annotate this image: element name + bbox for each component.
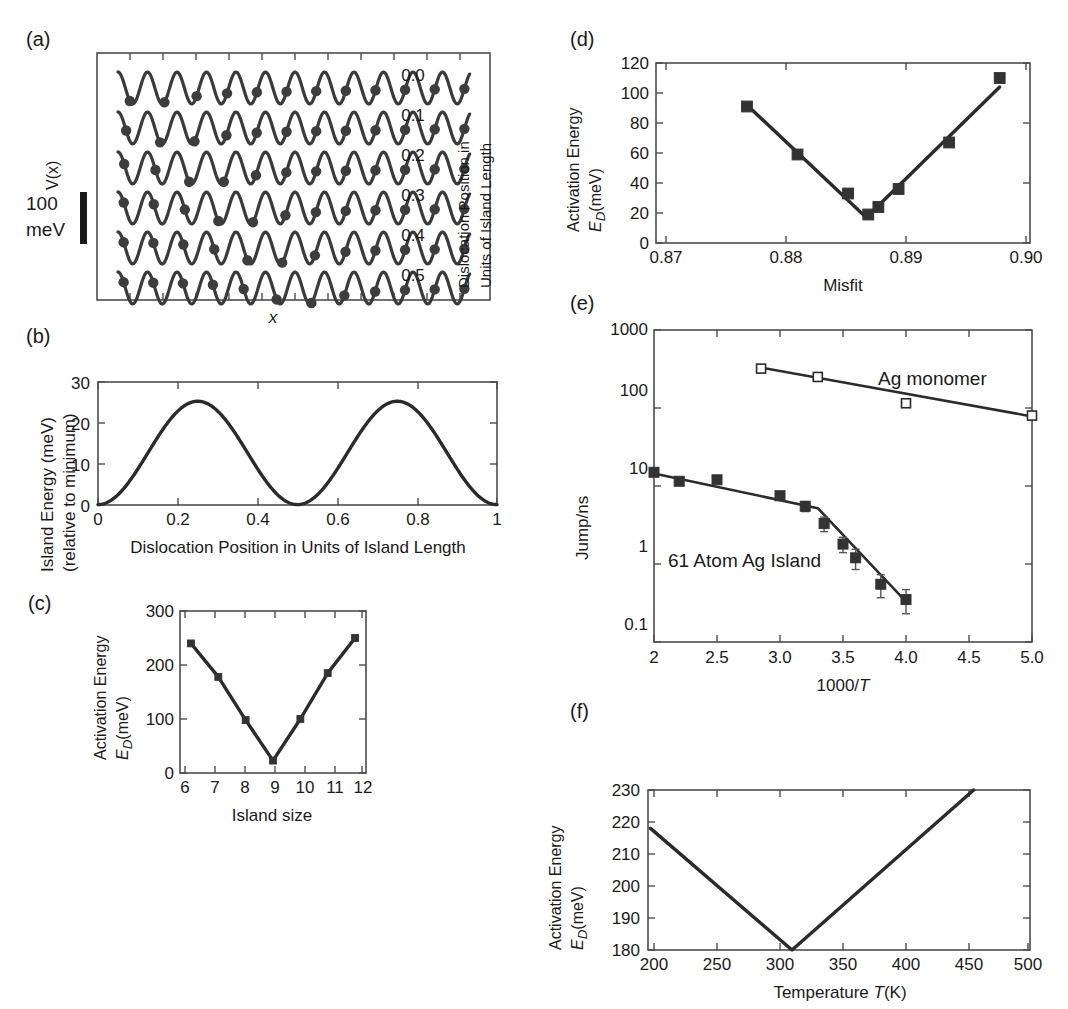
panel-d-ytick-6: 120 (595, 54, 649, 74)
panel-d-marker (863, 209, 874, 220)
panel-c-marker (188, 640, 195, 647)
panel-e-xlabel: 1000/T (743, 676, 943, 696)
panel-a-atom (242, 255, 252, 265)
panel-a-atom (118, 237, 128, 247)
panel-a-atom (311, 86, 321, 96)
panel-a-atom (208, 280, 218, 290)
panel-e-plot (0, 0, 1068, 1009)
panel-c-xticks (185, 611, 362, 773)
panel-a-atom (149, 199, 159, 209)
panel-e-annotation-monomer: Ag monomer (878, 368, 987, 390)
panel-a-label: (a) (26, 28, 50, 51)
panel-a-atom (125, 96, 135, 106)
panel-d-yticks (656, 63, 1030, 243)
panel-c-marker (215, 673, 222, 680)
panel-c-marker (352, 635, 359, 642)
panel-c-markers (188, 635, 359, 764)
panel-f-ytick-1: 190 (578, 909, 640, 929)
panel-a-atom (248, 217, 258, 227)
panel-a-atom (178, 278, 188, 288)
panel-a-atom (459, 124, 469, 134)
panel-b-xtick-2: 0.4 (228, 510, 288, 530)
panel-a-trace-label-5: 0.5 (393, 266, 433, 286)
panel-a-atom (459, 84, 469, 94)
panel-c-xlabel: Island size (162, 806, 382, 826)
panel-a-atom (280, 210, 290, 220)
panel-e-fit-1 (654, 473, 906, 601)
panel-e-xtick-1: 2.5 (687, 648, 747, 668)
panel-b-ylabel-line2: (relative to minimum) (60, 413, 80, 572)
panel-e-ytick-1: 1 (586, 537, 648, 557)
panel-a-trace-label-4: 0.4 (393, 226, 433, 246)
panel-c-xtick-6: 12 (341, 778, 385, 798)
panel-a-atom (209, 244, 219, 254)
panel-a-atom (184, 177, 194, 187)
panel-f-plot (0, 0, 1068, 1009)
panel-a-atom (341, 206, 351, 216)
panel-a-right-title-line1: Dislocation Position in (455, 141, 472, 288)
panel-d-ytick-1: 20 (595, 204, 649, 224)
panel-a-atom (178, 239, 188, 249)
panel-a-atom (222, 88, 232, 98)
panel-d-marker (742, 101, 753, 112)
panel-a-trace-label-0: 0.0 (393, 66, 433, 86)
panel-f-ytick-5: 230 (578, 781, 640, 801)
panel-a-atom (213, 216, 223, 226)
panel-f-xticks (654, 790, 1028, 950)
panel-a-atom (400, 125, 410, 135)
panel-b-ylabel-line1: Island Energy (meV) (38, 417, 58, 572)
panel-e-marker-island (838, 539, 848, 549)
panel-a-atom (238, 284, 248, 294)
panel-e-ytick-3: 100 (586, 381, 648, 401)
panel-f-line (651, 790, 974, 950)
panel-f-xtick-0: 200 (624, 955, 684, 975)
panel-f-xtick-6: 500 (998, 955, 1058, 975)
panel-a-atom (219, 177, 229, 187)
panel-c-ytick-3: 300 (118, 602, 174, 622)
panel-f-label: (f) (570, 700, 589, 723)
panel-f-xtick-5: 450 (939, 955, 999, 975)
panel-d-ylabel-line1: Activation Energy (565, 107, 583, 232)
panel-d-xtick-3: 0.90 (986, 248, 1066, 268)
panel-c-line (191, 638, 355, 761)
panel-d-xlabel: Misfit (743, 276, 943, 296)
panel-b-xtick-3: 0.6 (308, 510, 368, 530)
panel-a-atom (159, 97, 169, 107)
panel-d-marker (792, 149, 803, 160)
panel-a-atom (341, 126, 351, 136)
panel-e-marker-island (674, 476, 684, 486)
panel-a-trace-label-1: 0.1 (393, 106, 433, 126)
panel-d-ytick-4: 80 (595, 114, 649, 134)
panel-e-marker-island (712, 475, 722, 485)
panel-a-atom (180, 204, 190, 214)
panel-e-marker-monomer (1028, 411, 1037, 420)
panel-e-marker-monomer (813, 372, 822, 381)
panel-a-atom (341, 166, 351, 176)
panel-e-marker-island (819, 519, 829, 529)
panel-c-yticks (180, 611, 366, 773)
panel-b-xticks (98, 382, 497, 505)
panel-b-ytick-2: 20 (36, 415, 90, 435)
panel-a-atom (281, 167, 291, 177)
panel-b-yticks (98, 382, 497, 505)
panel-d-marker (873, 202, 884, 213)
panel-e-marker-island (649, 467, 659, 477)
panel-e-label: (e) (570, 292, 594, 315)
panel-e-marker-island (851, 553, 861, 563)
panel-c-marker (242, 717, 249, 724)
panel-a-atom (370, 205, 380, 215)
panel-a-atom (311, 166, 321, 176)
panel-a-plot (0, 0, 1068, 1009)
figure-canvas: (a) V(x) 100 meV (0, 0, 1068, 1009)
panel-e-xtick-6: 5.0 (1002, 648, 1062, 668)
panel-f-ylabel-line1: Activation Energy (547, 825, 565, 950)
panel-a-atom (155, 137, 165, 147)
panel-d-xtick-2: 0.89 (866, 248, 946, 268)
panel-a-trace-label-3: 0.3 (393, 186, 433, 206)
panel-f-yticks (648, 790, 1030, 950)
panel-d-ytick-3: 60 (595, 144, 649, 164)
panel-e-marker-island (775, 491, 785, 501)
panel-a-atom (189, 136, 199, 146)
panel-a-top-ticks (130, 53, 460, 60)
panel-d-xticks (666, 63, 1026, 243)
